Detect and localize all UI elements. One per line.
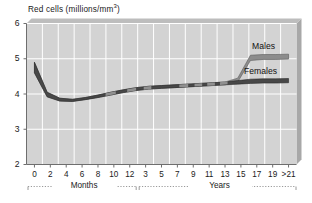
plot-shadow-right [297, 19, 302, 165]
series-label-males: Males [252, 41, 275, 51]
series-label-females: Females [244, 66, 277, 76]
months-bracket-label: Months [52, 181, 116, 190]
chart-figure: Red cells (millions/mm3) 234560246810123… [0, 0, 312, 203]
y-axis-tick-label: 3 [4, 124, 20, 134]
x-axis-tick-label: >21 [278, 170, 300, 179]
y-axis-tick-label: 6 [4, 18, 20, 28]
band-texture-streak [195, 83, 203, 86]
y-axis-tick-label: 5 [4, 53, 20, 63]
band-texture-streak [207, 83, 215, 86]
plot-shadow-top [27, 19, 302, 24]
band-texture-streak [179, 84, 188, 87]
y-axis-tick-label: 4 [4, 89, 20, 99]
y-axis-tick-label: 2 [4, 159, 20, 169]
years-bracket-label: Years [188, 181, 252, 190]
